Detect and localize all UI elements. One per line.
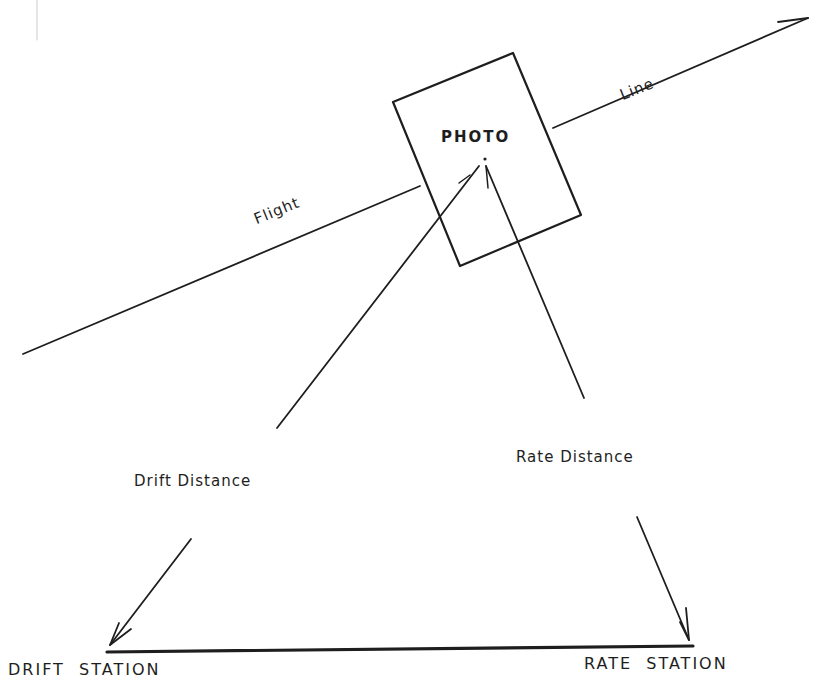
rate-station-arrow (637, 517, 689, 640)
drift-station-arrow (110, 539, 191, 645)
rate-distance-ray (486, 166, 584, 398)
diagram-canvas: PHOTO Flight Line Drift Distance Rate Di… (0, 0, 835, 684)
flight-line-left (23, 186, 420, 354)
diagram-lines (0, 0, 835, 684)
photo-center-point (483, 157, 486, 160)
rate-arrowhead-icon (680, 608, 689, 640)
flight-line-right (553, 18, 808, 128)
photo-frame (393, 53, 581, 266)
photo-label: PHOTO (441, 128, 510, 146)
rate-distance-label: Rate Distance (516, 448, 634, 466)
station-baseline (107, 646, 693, 652)
drift-arrowhead-icon (110, 623, 131, 645)
drift-station-label: DRIFT STATION (8, 660, 160, 679)
drift-distance-ray (277, 166, 479, 428)
drift-distance-label: Drift Distance (134, 472, 251, 490)
rate-station-label: RATE STATION (584, 654, 728, 673)
